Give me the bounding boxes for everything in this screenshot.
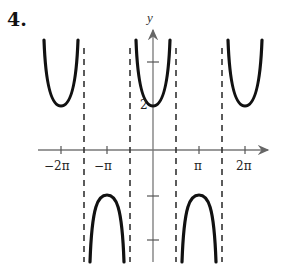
x-tick-label-2pi: 2π (236, 159, 252, 173)
x-tick-label-pi: π (194, 159, 202, 173)
downward-branch-negpi (90, 195, 124, 262)
x-tick-label-neg2pi: −2π (44, 159, 70, 173)
y-axis-label: y (145, 10, 153, 25)
downward-branch-pi (182, 195, 216, 262)
upward-branch-2pi (228, 40, 262, 106)
x-tick-label-negpi: −π (94, 159, 112, 173)
upward-branch-neg2pi (44, 40, 78, 106)
y-tick-label-2: 2 (140, 98, 148, 112)
secant-graph: y 2 −2π −π π 2π (0, 0, 286, 268)
